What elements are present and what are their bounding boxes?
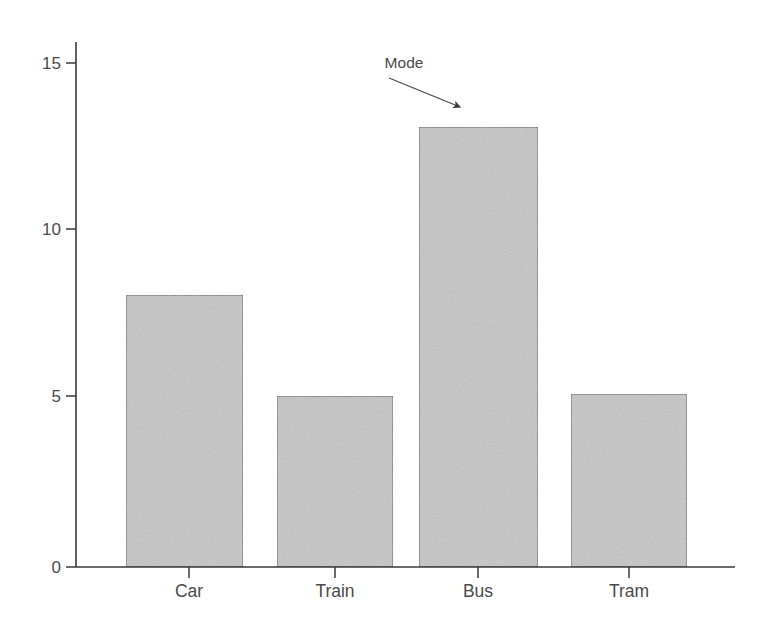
y-tick-label-0: 0	[52, 558, 61, 577]
chart-canvas: 15 10 5 0 Car Train Bus Tram Mode	[0, 0, 773, 628]
x-tick-label-tram: Tram	[609, 581, 649, 601]
y-tick-label-10: 10	[42, 220, 61, 239]
bar-train[interactable]	[277, 396, 393, 567]
bar-tram[interactable]	[571, 394, 687, 567]
bar-bus[interactable]	[419, 127, 538, 567]
bar-chart-figure: 15 10 5 0 Car Train Bus Tram Mode	[0, 0, 773, 628]
bar-car[interactable]	[126, 295, 243, 567]
y-tick-label-15: 15	[42, 54, 61, 73]
mode-annotation-label: Mode	[385, 54, 424, 71]
x-tick-label-train: Train	[315, 581, 354, 601]
x-tick-label-bus: Bus	[463, 581, 493, 601]
y-tick-label-5: 5	[52, 387, 61, 406]
x-tick-label-car: Car	[175, 581, 203, 601]
